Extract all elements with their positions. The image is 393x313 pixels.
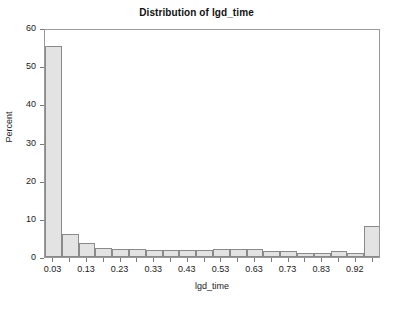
histogram-bar <box>112 249 129 257</box>
histogram-bar <box>62 234 79 257</box>
x-axis-tick-mark <box>220 258 221 262</box>
y-axis-tick-label: 60 <box>26 23 36 33</box>
plot-area <box>44 29 380 258</box>
x-axis-tick-mark <box>136 258 137 262</box>
histogram-bar <box>364 226 380 257</box>
y-axis-tick-label: 50 <box>26 61 36 71</box>
x-axis-title: lgd_time <box>44 281 380 291</box>
x-axis-tick-mark <box>69 258 70 262</box>
histogram-bar <box>213 249 230 257</box>
histogram-bar <box>347 253 364 257</box>
x-axis-tick-mark <box>103 258 104 262</box>
x-axis-tick-mark <box>237 258 238 262</box>
histogram-bar <box>179 250 196 257</box>
y-axis-tick-label: 40 <box>26 99 36 109</box>
x-axis-tick-mark <box>52 258 53 262</box>
histogram-bar <box>146 250 163 257</box>
histogram-bar <box>95 248 112 257</box>
y-axis-tick-label: 10 <box>26 214 36 224</box>
y-axis-tick-label: 20 <box>26 176 36 186</box>
x-axis-tick-mark <box>120 258 121 262</box>
x-axis-tick-mark <box>204 258 205 262</box>
histogram-bar <box>280 251 297 257</box>
x-axis-tick-mark <box>271 258 272 262</box>
x-axis: 0.030.130.230.330.430.530.630.730.830.92 <box>44 258 380 298</box>
histogram-bar <box>163 250 180 257</box>
histogram-bar <box>247 249 264 257</box>
x-axis-tick-mark <box>288 258 289 262</box>
x-axis-tick-mark <box>372 258 373 262</box>
x-axis-tick-mark <box>355 258 356 262</box>
histogram-bar <box>230 249 247 257</box>
histogram-bar <box>129 249 146 257</box>
histogram-figure: Distribution of lgd_time Percent 0102030… <box>0 0 393 313</box>
histogram-bar <box>314 253 331 257</box>
x-axis-tick-mark <box>304 258 305 262</box>
x-axis-tick-mark <box>170 258 171 262</box>
y-axis-title: Percent <box>4 92 14 162</box>
histogram-bar <box>45 46 62 257</box>
histogram-bar <box>331 251 348 257</box>
y-axis-tick-label: 0 <box>31 252 36 262</box>
histogram-bar <box>263 251 280 257</box>
x-axis-tick-mark <box>86 258 87 262</box>
x-axis-tick-mark <box>321 258 322 262</box>
x-axis-tick-mark <box>187 258 188 262</box>
y-axis-tick-label: 30 <box>26 138 36 148</box>
histogram-bar <box>79 243 96 257</box>
x-axis-tick-mark <box>254 258 255 262</box>
bars-layer <box>45 30 379 257</box>
x-axis-tick-mark <box>153 258 154 262</box>
chart-title: Distribution of lgd_time <box>0 7 393 18</box>
x-axis-tick-mark <box>338 258 339 262</box>
histogram-bar <box>196 250 213 257</box>
histogram-bar <box>297 253 314 257</box>
x-axis-tick-label: 0.92 <box>335 264 375 274</box>
